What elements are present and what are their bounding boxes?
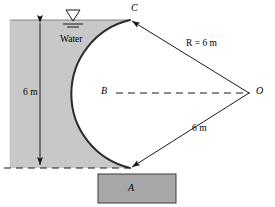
label-point-b: B: [101, 86, 107, 96]
label-depth-dimension: 6 m: [23, 88, 38, 98]
radius-line-oa: [132, 93, 249, 167]
diagram-canvas: [0, 0, 275, 207]
label-radius-lower: 6 m: [192, 124, 207, 134]
label-point-o: O: [256, 86, 263, 96]
label-radius-upper: R = 6 m: [186, 39, 217, 49]
radius-line-oc: [132, 21, 249, 93]
water-level-symbol-icon: [63, 10, 83, 27]
label-point-a: A: [128, 183, 134, 193]
figure-root: C B A O R = 6 m 6 m 6 m Water: [0, 0, 275, 207]
label-water: Water: [60, 35, 82, 45]
label-point-c: C: [131, 3, 138, 13]
support-block: [98, 174, 176, 203]
